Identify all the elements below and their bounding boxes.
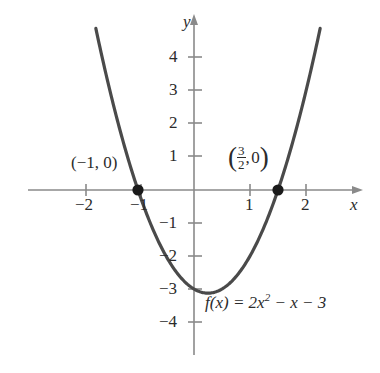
x-tick-label--1: −1: [130, 196, 148, 213]
fraction-three-halves: 32: [237, 144, 246, 172]
graph-canvas: y x −2 −1 1 2 4 3 2 1 −1 −2 −3 −4 (−1, 0…: [0, 0, 380, 373]
y-tick-label-1: 1: [169, 147, 178, 164]
x-tick-label--2: −2: [75, 196, 93, 213]
y-tick-label--4: −4: [159, 313, 177, 330]
x-tick-label-2: 2: [301, 196, 310, 213]
equation-paren-close: ): [223, 293, 229, 312]
y-tick-label-2: 2: [169, 114, 178, 131]
left-paren: (: [228, 142, 237, 172]
fraction-numerator: 3: [237, 144, 246, 157]
x-tick-label-1: 1: [245, 196, 254, 213]
annotation-y-value: 0: [251, 148, 260, 167]
equation-constant: 3: [318, 293, 327, 312]
equation-linear-var: x: [290, 293, 298, 312]
left-intercept-text: (−1, 0): [71, 153, 117, 172]
y-tick-label-3: 3: [169, 81, 178, 98]
point-right-intercept[interactable]: [272, 184, 283, 195]
equation-minus-1: −: [274, 293, 285, 312]
right-intercept-annotation: (32, 0): [228, 145, 269, 173]
y-tick-label-4: 4: [169, 48, 178, 65]
equation-minus-2: −: [302, 293, 313, 312]
equation-exponent: 2: [265, 291, 271, 303]
function-equation-label: f(x) = 2x2 − x − 3: [205, 292, 326, 311]
left-intercept-annotation: (−1, 0): [71, 154, 117, 171]
y-tick-label--1: −1: [159, 214, 177, 231]
equation-var-squared: x: [257, 293, 265, 312]
x-axis-arrow-icon: [352, 186, 363, 194]
right-paren: ): [260, 142, 269, 172]
equation-coefficient: 2: [249, 293, 258, 312]
y-axis-arrow-icon: [190, 14, 198, 25]
parabola-curve: [96, 28, 320, 293]
x-axis-label: x: [350, 196, 358, 213]
y-axis-label: y: [183, 13, 191, 30]
y-tick-label--3: −3: [159, 280, 177, 297]
y-tick-label--2: −2: [159, 247, 177, 264]
equation-equals: =: [233, 293, 244, 312]
fraction-denominator: 2: [237, 157, 246, 171]
coordinate-plane: [0, 0, 380, 373]
point-left-intercept[interactable]: [132, 184, 143, 195]
annotation-comma: ,: [246, 148, 250, 167]
equation-fn-var: x: [215, 293, 223, 312]
